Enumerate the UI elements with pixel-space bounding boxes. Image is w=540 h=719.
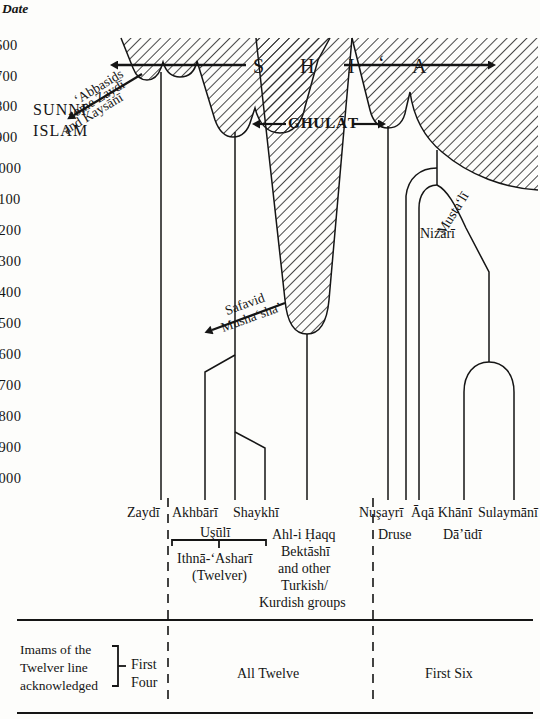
legend-brace [112,646,126,686]
date-tick-1300: 1300 [0,253,21,269]
ahl-i-haqq-line1: Ahl-i Ḥaqq [272,527,335,543]
usuli-brace [172,540,266,548]
sub-label-druse: Druse [378,527,411,543]
sect-label-sulaymani: Sulaymānī [478,505,538,521]
ahl-i-haqq-line4: Turkish/ [281,578,328,594]
sect-label-aqa-khani: Āqā Khānī [411,505,472,521]
date-tick-1000: 1000 [0,160,21,176]
sub-label-ithna-ashari: Ithnā-‘Asharī [177,551,252,567]
sect-label-nusayri: Nuşayrī [359,505,403,521]
legend-caption-line2: Twelver line [20,659,88,676]
line-daudi [464,362,489,500]
legend-cell-all-twelve: All Twelve [237,666,299,682]
shia-letter-ayn: ‘ [378,52,386,74]
legend-cell-first-six: First Six [425,666,473,682]
diagram-page: Date 600 700 800 900 1000 1100 1200 1300… [0,0,540,719]
date-tick-600: 600 [0,37,18,53]
date-tick-1700: 1700 [0,377,21,393]
shia-letter-h: H [300,55,315,77]
date-tick-1900: 1900 [0,439,21,455]
date-tick-1800: 1800 [0,408,21,424]
sect-label-shaykhi: Shaykhī [233,505,279,521]
date-tick-1500: 1500 [0,315,21,331]
sub-label-daudi: Dā’ūdī [443,527,482,543]
sect-label-zaydi: Zaydī [127,505,160,521]
shia-letter-s: S [253,55,265,77]
line-akhbari [205,355,235,500]
line-sulaymani [489,362,514,500]
sect-label-akhbari: Akhbārī [172,505,218,521]
sub-label-twelver: (Twelver) [192,568,247,584]
shia-letter-a: A [412,55,427,77]
sub-label-usuli: Uşūlī [200,525,230,541]
legend-caption-line3: acknowledged [20,677,98,694]
date-axis-title: Date [2,1,28,16]
date-tick-900: 900 [0,129,18,145]
date-tick-1400: 1400 [0,284,21,300]
date-tick-800: 800 [0,98,18,114]
legend-caption-line1: Imams of the [20,641,91,658]
date-tick-1200: 1200 [0,222,21,238]
line-shaykhi [235,432,265,500]
shia-right-region [330,38,538,190]
line-druse [406,168,437,500]
shia-letter-i: I [348,55,356,77]
ahl-i-haqq-line3: and other [278,561,330,577]
legend-cell-first-four-line2: Four [131,675,157,691]
date-tick-700: 700 [0,68,18,84]
ahl-i-haqq-line2: Bektāshī [281,544,330,560]
legend-cell-first-four-line1: First [131,657,157,673]
ahl-i-haqq-line5: Kurdish groups [259,595,346,611]
ghulat-label: GHULĀT [288,114,359,131]
date-tick-2000: 2000 [0,470,21,486]
date-tick-1600: 1600 [0,346,21,362]
date-tick-1100: 1100 [0,191,21,207]
ghulat-region [256,38,352,334]
